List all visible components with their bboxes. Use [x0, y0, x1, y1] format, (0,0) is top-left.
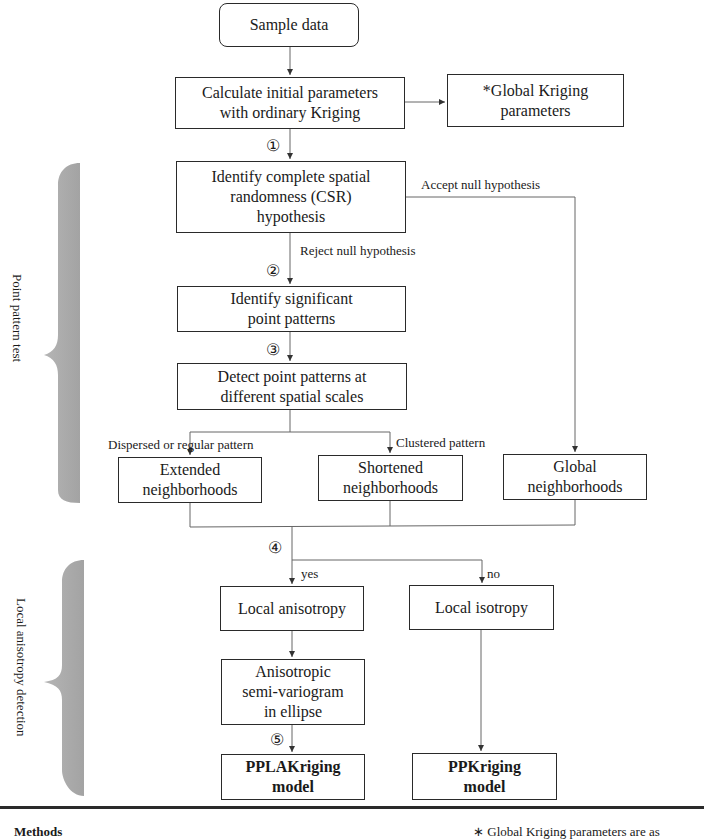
bracket-point-pattern	[44, 163, 80, 503]
node-identify-significant-patterns: Identify significantpoint patterns	[177, 286, 406, 332]
edge-label-accept: Accept null hypothesis	[421, 177, 540, 192]
node-anisotropic-semivariogram: Anisotropicsemi-variogramin ellipse	[221, 659, 365, 725]
step-5: ⑤	[270, 732, 284, 748]
bracket-local-anisotropy	[44, 560, 84, 796]
node-global-kriging-parameters: *Global Krigingparameters	[447, 74, 624, 127]
node-calculate-initial-parameters: Calculate initial parameterswith ordinar…	[175, 77, 405, 129]
footer-note: ∗ Global Kriging parameters are as	[473, 824, 660, 840]
node-local-isotropy: Local isotropy	[409, 585, 554, 630]
local-anisotropy-detection-label: Local anisotropy detection	[13, 598, 29, 737]
step-3: ③	[266, 342, 280, 358]
node-detect-point-patterns: Detect point patterns atdifferent spatia…	[177, 363, 407, 410]
node-local-anisotropy: Local anisotropy	[220, 586, 364, 631]
edge-label-no: no	[487, 566, 500, 581]
step-4: ④	[268, 540, 282, 556]
step-1: ①	[266, 138, 280, 154]
node-sample-data: Sample data	[219, 3, 359, 47]
edge-label-dispersed: Dispersed or regular pattern	[108, 437, 253, 452]
point-pattern-test-label: Point pattern test	[9, 274, 25, 362]
step-2: ②	[266, 263, 280, 279]
edge-label-clustered: Clustered pattern	[396, 435, 485, 450]
divider-rule	[0, 806, 704, 809]
node-ppkriging-model: PPKrigingmodel	[412, 753, 557, 800]
node-text: Sample data	[250, 15, 329, 35]
edge-label-reject: Reject null hypothesis	[300, 243, 416, 258]
edge-label-yes: yes	[301, 566, 318, 581]
node-csr-hypothesis: Identify complete spatialrandomness (CSR…	[176, 161, 406, 233]
node-shortened-neighborhoods: Shortenedneighborhoods	[318, 455, 463, 501]
node-pplakriging-model: PPLAKrigingmodel	[221, 754, 365, 800]
footer-methods: Methods	[14, 824, 62, 840]
node-global-neighborhoods: Globalneighborhoods	[503, 454, 647, 500]
node-extended-neighborhoods: Extendedneighborhoods	[118, 457, 262, 503]
